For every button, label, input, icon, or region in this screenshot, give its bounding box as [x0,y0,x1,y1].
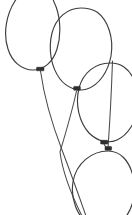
knot-balloon-1 [37,67,45,71]
balloon-3 [77,63,132,142]
knot-balloon-3 [101,140,108,144]
balloon-drawing-canvas [0,0,132,215]
balloon-illustration: Balloons four outlined party balloons wi… [0,0,132,215]
balloon-3-body [77,63,132,142]
string-balloon-4 [108,61,113,148]
knot-balloon-4 [105,147,112,151]
balloon-4-body [72,151,132,215]
balloon-4 [72,151,132,215]
balloon-strings-group [41,61,113,215]
string-balloon-1 [41,71,87,215]
knot-balloon-2 [74,86,81,90]
